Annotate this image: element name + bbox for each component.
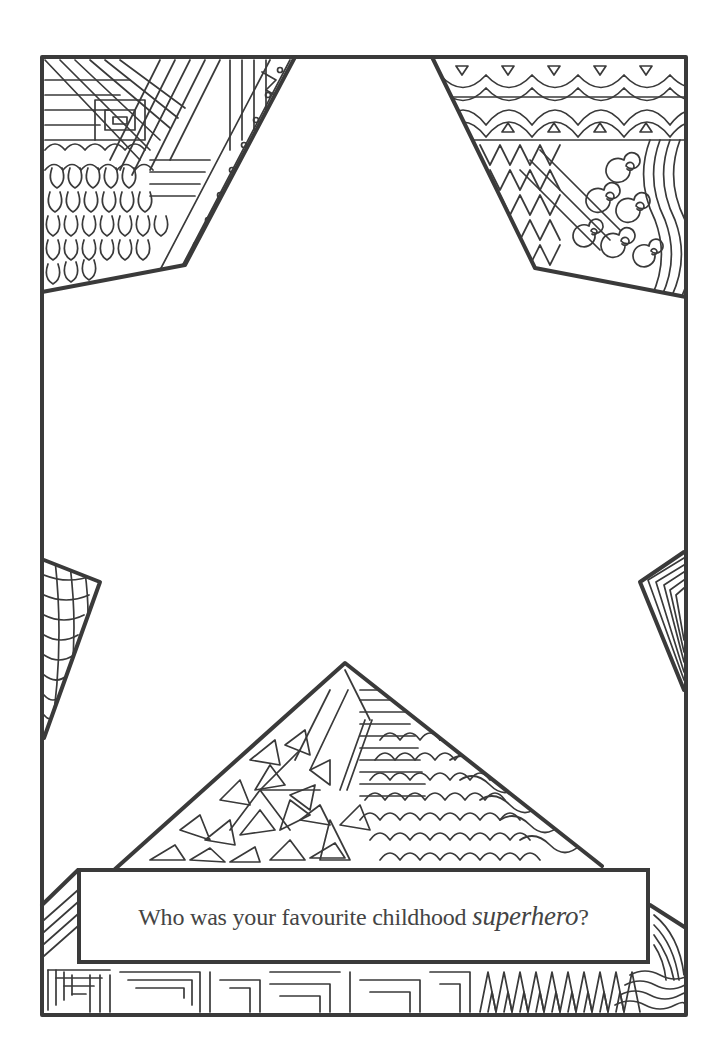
prompt-text-after: ? — [578, 904, 588, 930]
top-right-edge — [432, 57, 686, 297]
top-left-edge — [42, 57, 295, 292]
prompt-box: Who was your favourite childhood superhe… — [77, 868, 650, 964]
bottom-triangle-pattern — [150, 670, 620, 862]
top-right-pattern — [440, 66, 716, 300]
prompt-text-emphasis: superhero — [472, 901, 578, 931]
prompt-text-before: Who was your favourite childhood — [138, 904, 472, 930]
bottom-left-edge — [42, 870, 78, 905]
prompt-question: Who was your favourite childhood superhe… — [138, 901, 589, 932]
top-left-pattern — [45, 60, 308, 284]
